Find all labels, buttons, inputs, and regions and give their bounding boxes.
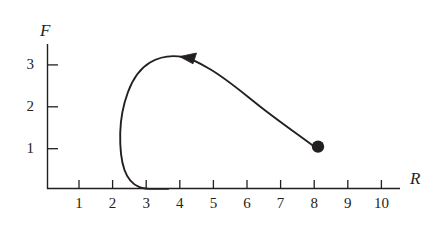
x-tick-label-1: 1 xyxy=(66,196,92,211)
x-tick-label-3: 3 xyxy=(133,196,159,211)
x-tick-label-10: 10 xyxy=(368,196,394,211)
x-tick-label-6: 6 xyxy=(234,196,260,211)
x-tick-label-8: 8 xyxy=(301,196,327,211)
x-axis-ticks xyxy=(79,180,381,189)
x-tick-label-9: 9 xyxy=(335,196,361,211)
y-axis-title: F xyxy=(40,22,50,39)
x-tick-label-4: 4 xyxy=(167,196,193,211)
start-point-marker xyxy=(312,140,324,152)
trajectory-curve xyxy=(120,56,314,189)
y-tick-label-2: 2 xyxy=(14,99,34,114)
y-tick-label-1: 1 xyxy=(14,141,34,156)
x-tick-label-2: 2 xyxy=(100,196,126,211)
direction-arrowhead-icon xyxy=(180,53,197,64)
x-tick-label-7: 7 xyxy=(268,196,294,211)
x-tick-label-5: 5 xyxy=(200,196,226,211)
figure-canvas: 1 2 3 4 5 6 7 8 9 10 1 2 3 R F xyxy=(0,0,445,230)
x-axis-title: R xyxy=(410,170,420,187)
y-tick-label-3: 3 xyxy=(14,57,34,72)
y-axis-ticks xyxy=(48,65,59,149)
